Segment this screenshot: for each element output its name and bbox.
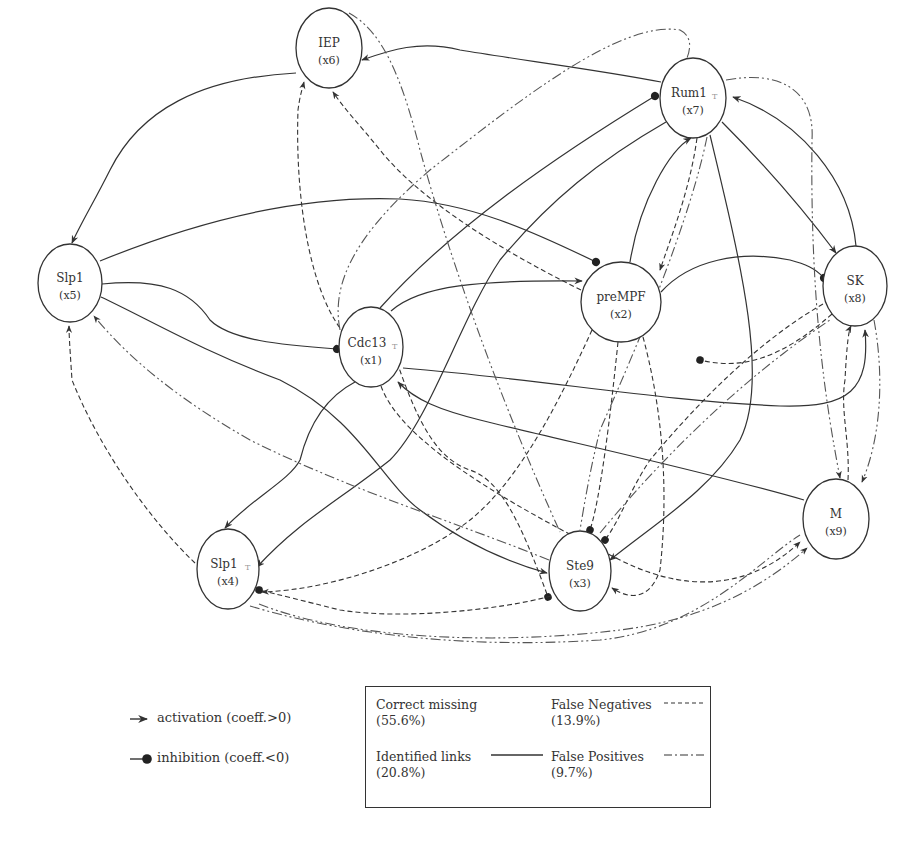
legend-false-negatives-value: (13.9%): [551, 713, 652, 729]
node-m-label: M: [830, 507, 842, 521]
edge-fn-sk-ste9: [605, 304, 823, 540]
node-premPF-sub: (x2): [610, 308, 632, 321]
edge-cdc13-slp1x4: [225, 382, 355, 528]
legend-identified-links-value: (20.8%): [376, 765, 471, 781]
edge-slp1-ste9: [101, 297, 547, 573]
legend-dashed-line: [664, 697, 704, 709]
node-rum1-sub: (x7): [682, 104, 704, 117]
nodes: IEP (x6) Rum1 T (x7) Slp1 (x5) Cdc13 T (…: [38, 8, 887, 611]
node-rum1-label: Rum1: [671, 86, 707, 100]
edge-rum1-sk: [722, 122, 836, 253]
legend-solid-line: [491, 749, 543, 761]
node-cdc13-superscript: T: [392, 342, 398, 351]
legend-correct-missing-value: (55.6%): [376, 713, 477, 729]
node-ste9: Ste9 (x3): [549, 531, 611, 611]
node-sk: SK (x8): [823, 246, 887, 326]
edge-rum1-iep: [362, 46, 661, 82]
edge-fp-slp1x4-m2: [250, 535, 800, 643]
edge-rum1-slp1x4: [257, 122, 666, 567]
legend-false-negatives-label: False Negatives: [551, 697, 652, 713]
node-slp1-x5-label: Slp1: [56, 271, 83, 285]
node-slp1-x5-sub: (x5): [59, 289, 81, 302]
edge-sk-rum1: [733, 97, 856, 246]
node-ste9-sub: (x3): [569, 577, 591, 590]
edge-fn-cdc13-ste9: [397, 362, 548, 597]
edge-fp-rum1-m: [726, 78, 840, 479]
edge-fp-sk-m: [862, 320, 880, 482]
legend-identified-links-label: Identified links: [376, 749, 471, 765]
node-sk-label: SK: [846, 274, 864, 288]
node-iep-sub: (x6): [318, 54, 340, 67]
node-iep-label: IEP: [318, 36, 340, 50]
legend-identified-links: Identified links (20.8%): [376, 749, 471, 781]
activation-legend-text: activation (coeff.>0): [157, 710, 291, 725]
edge-premPF-sk: [661, 256, 824, 292]
edge-fn-rum1-premPF: [660, 138, 697, 270]
node-m-sub: (x9): [825, 525, 847, 538]
edge-fn-sk-premPF: [700, 314, 832, 364]
node-premPF-label: preMPF: [596, 290, 645, 304]
edge-fn-premPF-iep: [333, 92, 581, 290]
node-slp1-x4: Slp1 T (x4): [197, 529, 259, 609]
identified-edges: [72, 46, 866, 573]
edge-fn-premPF-ste9b: [612, 337, 664, 595]
edge-m-cdc13: [398, 382, 804, 500]
node-slp1-x5: Slp1 (x5): [38, 244, 102, 322]
node-cdc13-label: Cdc13: [348, 336, 387, 350]
legend-correct-missing-label: Correct missing: [376, 697, 477, 713]
edge-fn-m-sk: [844, 326, 851, 480]
edge-fn-premPF-ste9: [590, 342, 618, 530]
edge-iep-slp1: [72, 73, 296, 243]
node-m: M (x9): [803, 479, 869, 559]
node-premPF: preMPF (x2): [581, 262, 661, 342]
legend-dashdot-line: [664, 749, 704, 761]
legend-box: Correct missing (55.6%) False Negatives …: [365, 686, 711, 808]
edge-fn-slp1x4-slp1: [69, 326, 195, 563]
node-slp1-x4-label: Slp1: [210, 557, 237, 571]
edge-fp-iep-ste9: [349, 13, 560, 532]
node-cdc13: Cdc13 T (x1): [339, 307, 403, 387]
edge-fp-ste9-slp1: [94, 316, 549, 560]
node-slp1-x4-superscript: T: [245, 563, 251, 572]
node-iep: IEP (x6): [296, 8, 362, 88]
legend-correct-missing: Correct missing (55.6%): [376, 697, 477, 729]
legend-false-positives-value: (9.7%): [551, 765, 644, 781]
edge-premPF-rum1: [630, 138, 691, 262]
edge-slp1-cdc13: [102, 283, 337, 350]
legend-false-positives-label: False Positives: [551, 749, 644, 765]
legend-false-positives: False Positives (9.7%): [551, 749, 644, 781]
node-slp1-x4-sub: (x4): [217, 575, 239, 588]
legend-false-negatives: False Negatives (13.9%): [551, 697, 652, 729]
side-legend-symbols: [130, 719, 147, 759]
node-sk-sub: (x8): [844, 292, 866, 305]
edge-slp1-premPF: [100, 199, 596, 262]
node-rum1: Rum1 T (x7): [660, 58, 726, 138]
edge-cdc13-premPF: [391, 281, 582, 311]
edge-fp-slp1x4-m: [259, 548, 807, 638]
false-negative-edges: [69, 82, 851, 614]
node-rum1-superscript: T: [712, 92, 718, 101]
node-ste9-label: Ste9: [566, 559, 594, 573]
edge-fn-premPF-slp1x4: [262, 330, 592, 592]
inhibition-legend-text: inhibition (coeff.<0): [157, 750, 289, 765]
node-cdc13-sub: (x1): [360, 354, 382, 367]
edge-fn-cdc13-iep: [298, 82, 350, 340]
edge-fn-ste9-slp1x4: [259, 590, 551, 614]
edge-fp-ste9-sk: [600, 320, 830, 533]
